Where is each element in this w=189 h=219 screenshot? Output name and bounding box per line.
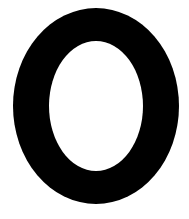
- letter-canvas: O: [0, 0, 189, 219]
- letter-o-text: O: [0, 0, 1, 1]
- letter-o-counter: [49, 41, 143, 171]
